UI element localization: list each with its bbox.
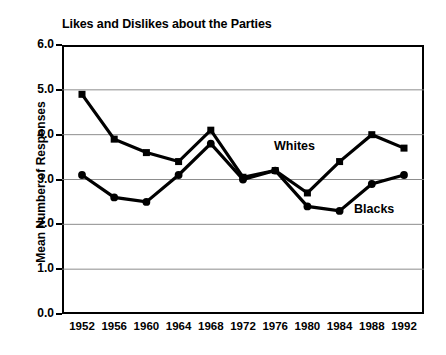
data-point-marker bbox=[78, 171, 86, 179]
y-tick-label: 2.0 bbox=[14, 216, 54, 230]
data-point-marker bbox=[368, 131, 375, 138]
data-point-marker bbox=[304, 189, 311, 196]
data-point-marker bbox=[143, 149, 150, 156]
data-point-marker bbox=[400, 171, 408, 179]
y-tick-label: 6.0 bbox=[14, 37, 54, 51]
data-point-marker bbox=[207, 127, 214, 134]
plot-canvas bbox=[62, 45, 424, 314]
data-point-marker bbox=[111, 136, 118, 143]
data-point-marker bbox=[304, 203, 312, 211]
data-point-marker bbox=[239, 176, 247, 184]
data-point-marker bbox=[175, 158, 182, 165]
series-annotation-blacks: Blacks bbox=[354, 202, 394, 216]
y-tick-label: 1.0 bbox=[14, 261, 54, 275]
series-annotation-whites: Whites bbox=[274, 139, 315, 153]
data-point-marker bbox=[368, 180, 376, 188]
chart-figure: Likes and Dislikes about the Parties Mea… bbox=[0, 0, 446, 355]
y-tick-label: 4.0 bbox=[14, 127, 54, 141]
data-point-marker bbox=[143, 198, 151, 206]
y-tick-label: 3.0 bbox=[14, 172, 54, 186]
chart-title: Likes and Dislikes about the Parties bbox=[62, 17, 272, 31]
data-point-marker bbox=[401, 145, 408, 152]
y-tick-label: 5.0 bbox=[14, 82, 54, 96]
data-point-marker bbox=[271, 167, 279, 175]
data-point-marker bbox=[79, 91, 86, 98]
data-point-marker bbox=[110, 194, 118, 202]
data-point-marker bbox=[336, 207, 344, 215]
data-point-marker bbox=[336, 158, 343, 165]
data-point-marker bbox=[175, 171, 183, 179]
x-tick-label: 1992 bbox=[382, 320, 426, 332]
y-tick-label: 0.0 bbox=[14, 306, 54, 320]
data-point-marker bbox=[207, 140, 215, 148]
